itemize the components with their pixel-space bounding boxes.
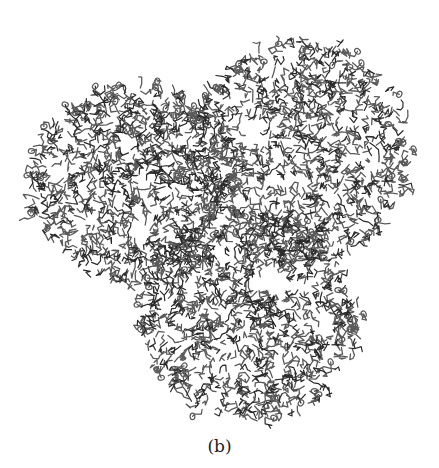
protein-structure-image bbox=[0, 0, 439, 430]
stick-model bbox=[20, 36, 418, 428]
figure-caption: (b) bbox=[0, 436, 439, 456]
